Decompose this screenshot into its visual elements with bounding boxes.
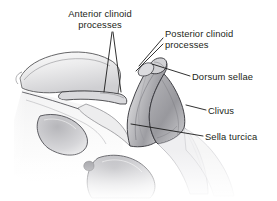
label-dorsum-sellae: Dorsum sellae (192, 71, 276, 82)
label-anterior-clinoid-line1: Anterior clinoid (68, 8, 132, 19)
label-anterior-clinoid-processes: Anterior clinoid processes (58, 8, 142, 30)
label-clivus: Clivus (208, 105, 268, 116)
anatomical-figure: Anterior clinoid processes Posterior cli… (0, 0, 277, 201)
label-posterior-clinoid-line1: Posterior clinoid (165, 28, 233, 39)
label-sella-turcica: Sella turcica (205, 131, 277, 142)
clivus-leader (186, 105, 206, 110)
label-posterior-clinoid-line2: processes (165, 39, 209, 50)
label-posterior-clinoid-processes: Posterior clinoid processes (165, 28, 275, 50)
label-anterior-clinoid-line2: processes (78, 19, 122, 30)
